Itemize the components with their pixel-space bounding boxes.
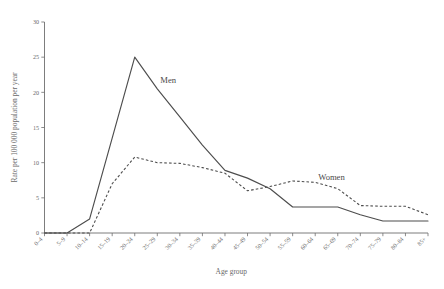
x-axis-tick-label: 85+: [416, 236, 427, 247]
data-series-group: [45, 57, 429, 233]
x-axis-tick-label: 55–59: [277, 236, 292, 251]
chart-container: 051015202530 0–45–910–1415–1920–2425–293…: [0, 0, 444, 289]
line-chart-svg: 051015202530 0–45–910–1415–1920–2425–293…: [0, 0, 444, 289]
x-axis-tick-label: 60–64: [299, 236, 314, 251]
y-axis-tick-label: 5: [36, 195, 39, 201]
x-axis-tick-label: 80–84: [390, 236, 405, 251]
y-axis-tick-label: 0: [36, 230, 39, 236]
series-line-men: [45, 57, 429, 233]
series-annotations: MenWomen: [160, 75, 345, 181]
x-axis: 0–45–910–1415–1920–2425–2930–3435–3940–4…: [33, 233, 428, 251]
x-axis-title: Age group: [216, 267, 248, 276]
x-axis-tick-label: 65–69: [322, 236, 337, 251]
x-axis-tick-label: 0–4: [33, 236, 44, 247]
x-axis-tick-label: 70–74: [345, 236, 360, 251]
y-axis-tick-label: 10: [33, 160, 39, 166]
series-label-men: Men: [160, 75, 176, 85]
series-label-women: Women: [318, 172, 345, 182]
y-axis-tick-label: 30: [33, 19, 39, 25]
x-axis-tick-label: 50–54: [254, 236, 269, 251]
y-axis-tick-label: 15: [33, 125, 39, 131]
x-axis-tick-label: 30–34: [164, 236, 179, 251]
y-axis-tick-label: 20: [33, 90, 39, 96]
y-axis: 051015202530: [33, 19, 45, 236]
x-axis-tick-label: 5–9: [56, 236, 67, 247]
x-axis-tick-label: 15–19: [96, 236, 111, 251]
x-axis-tick-label: 75–79: [367, 236, 382, 251]
x-axis-tick-label: 45–49: [232, 236, 247, 251]
series-line-women: [45, 157, 429, 233]
x-axis-tick-label: 25–29: [141, 236, 156, 251]
x-axis-tick-label: 10–14: [74, 236, 89, 251]
x-axis-tick-label: 40–44: [209, 236, 224, 251]
x-axis-tick-label: 20–24: [119, 236, 134, 251]
x-axis-tick-label: 35–39: [187, 236, 202, 251]
y-axis-tick-label: 25: [33, 54, 39, 60]
y-axis-title: Rate per 100 000 population per year: [10, 72, 19, 183]
